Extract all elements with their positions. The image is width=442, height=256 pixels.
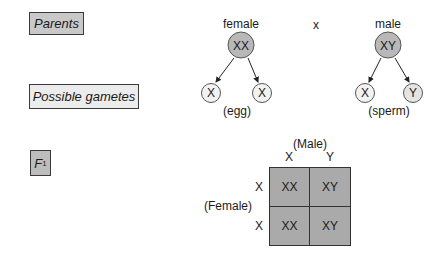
cross-symbol: x — [313, 18, 319, 32]
punnett-row-title: (Female) — [204, 199, 252, 213]
sperm-gamete-circle: Y — [403, 83, 423, 103]
sperm-caption: (sperm) — [368, 104, 409, 118]
arrow-icon — [395, 58, 409, 82]
egg-allele: X — [258, 86, 266, 100]
punnett-row-header: X — [255, 219, 263, 233]
punnett-cell: XY — [310, 207, 350, 246]
female-genotype-circle: XX — [228, 32, 255, 59]
female-parent-label: female — [223, 17, 259, 31]
arrow-icon — [216, 58, 234, 82]
male-genotype: XY — [380, 38, 396, 52]
punnett-cell: XY — [310, 168, 350, 207]
punnett-col-title: (Male) — [293, 137, 327, 151]
female-genotype: XX — [233, 38, 249, 52]
egg-gamete-circle: X — [201, 83, 221, 103]
punnett-square: XX XY XX XY — [269, 167, 351, 246]
sperm-gamete-circle: X — [355, 83, 375, 103]
arrow-icon — [369, 58, 381, 82]
egg-caption: (egg) — [223, 104, 251, 118]
punnett-row-header: X — [255, 180, 263, 194]
arrow-icon — [248, 58, 258, 82]
punnett-cell: XX — [270, 207, 310, 246]
punnett-cell: XX — [270, 168, 310, 207]
punnett-col-header: X — [285, 150, 293, 164]
male-parent-label: male — [375, 17, 401, 31]
male-genotype-circle: XY — [375, 32, 402, 59]
egg-allele: X — [207, 86, 215, 100]
sperm-allele: X — [361, 86, 369, 100]
egg-gamete-circle: X — [252, 83, 272, 103]
punnett-col-header: Y — [326, 150, 334, 164]
sperm-allele: Y — [409, 86, 417, 100]
